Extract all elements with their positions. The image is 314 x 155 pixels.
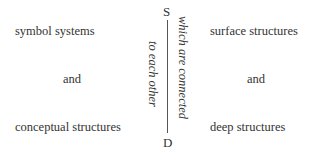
right-and-label: and	[247, 73, 265, 86]
right-bottom-label: deep structures	[210, 121, 285, 134]
caption-which-are-connected: which are connected	[177, 16, 190, 119]
left-top-label: symbol systems	[15, 25, 95, 38]
right-top-label: surface structures	[210, 25, 298, 38]
axis-bottom-label-d: D	[163, 136, 172, 149]
caption-to-each-other: to each other	[147, 41, 160, 107]
connector-line	[167, 20, 168, 133]
left-bottom-label: conceptual structures	[15, 121, 121, 134]
axis-top-label-s: S	[163, 5, 170, 18]
left-and-label: and	[63, 73, 81, 86]
